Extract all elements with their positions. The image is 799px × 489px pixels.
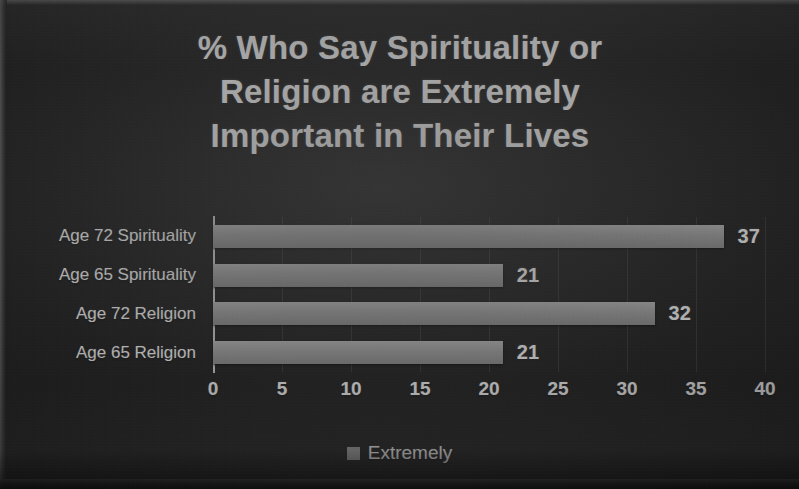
x-tick-label: 15	[409, 378, 430, 400]
bar-value-age-65-religion: 21	[517, 341, 539, 364]
bar-row: 21	[213, 256, 765, 295]
bar-row: 32	[213, 295, 765, 334]
category-label-age-65-spirituality: Age 65 Spirituality	[8, 256, 206, 295]
bar-age-72-religion	[213, 302, 655, 325]
bar-age-65-religion	[213, 341, 503, 364]
bar-row: 21	[213, 333, 765, 372]
bar-value-age-72-religion: 32	[669, 302, 691, 325]
x-tick-label: 35	[685, 378, 706, 400]
x-tick-label: 25	[547, 378, 568, 400]
x-tick-label: 20	[478, 378, 499, 400]
x-tick-label: 30	[616, 378, 637, 400]
bar-value-age-65-spirituality: 21	[517, 264, 539, 287]
category-label-age-72-spirituality: Age 72 Spirituality	[8, 217, 206, 256]
legend-swatch-extremely	[347, 447, 360, 460]
x-tick-label: 0	[208, 378, 219, 400]
bar-row: 37	[213, 217, 765, 256]
x-tick-label: 5	[277, 378, 288, 400]
chart-title-line-1: % Who Say Spirituality or	[60, 26, 740, 70]
x-axis-tick-labels: 0510152025303540	[213, 378, 765, 404]
legend-label-extremely: Extremely	[368, 442, 452, 464]
bar-age-65-spirituality	[213, 264, 503, 287]
bar-age-72-spirituality	[213, 225, 724, 248]
chart-title-line-2: Religion are Extremely	[60, 70, 740, 114]
chart-screenshot: % Who Say Spirituality or Religion are E…	[0, 0, 799, 489]
x-tick-label: 40	[754, 378, 775, 400]
slide-top-edge	[0, 0, 799, 6]
chart-legend: Extremely	[0, 442, 799, 464]
category-label-age-72-religion: Age 72 Religion	[8, 295, 206, 334]
bar-series-extremely: 37 21 32 21	[213, 217, 765, 372]
slide-bottom-edge	[0, 479, 799, 489]
gridline	[765, 217, 766, 372]
chart-title-line-3: Important in Their Lives	[60, 114, 740, 158]
category-axis-labels: Age 72 Spirituality Age 65 Spirituality …	[8, 217, 206, 372]
bar-value-age-72-spirituality: 37	[738, 225, 760, 248]
x-tick-label: 10	[340, 378, 361, 400]
chart-title: % Who Say Spirituality or Religion are E…	[60, 26, 740, 158]
slide-left-edge	[0, 0, 7, 489]
category-label-age-65-religion: Age 65 Religion	[8, 333, 206, 372]
